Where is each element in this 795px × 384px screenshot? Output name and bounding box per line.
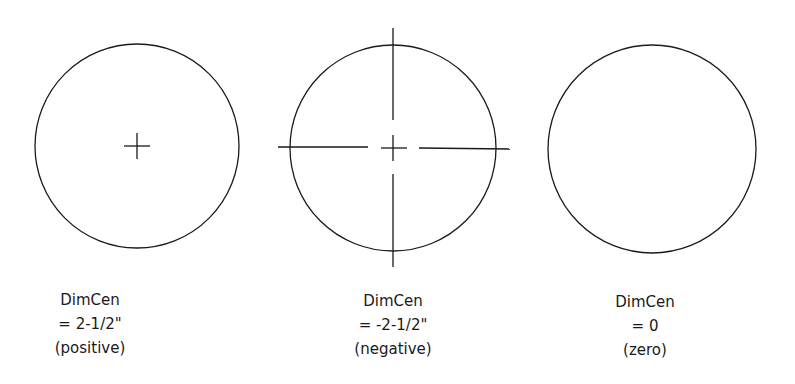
label-value: = 0 <box>555 314 735 338</box>
circle-zero <box>548 45 756 253</box>
label-positive: DimCen = 2-1/2" (positive) <box>0 288 180 360</box>
label-kind: (positive) <box>0 336 180 360</box>
center-mark-icon <box>124 133 150 159</box>
label-value: = -2-1/2" <box>303 313 483 337</box>
label-title: DimCen <box>303 289 483 313</box>
label-zero: DimCen = 0 (zero) <box>555 290 735 362</box>
label-title: DimCen <box>0 288 180 312</box>
label-title: DimCen <box>555 290 735 314</box>
label-kind: (negative) <box>303 337 483 361</box>
label-negative: DimCen = -2-1/2" (negative) <box>303 289 483 361</box>
label-kind: (zero) <box>555 338 735 362</box>
center-lines-icon <box>278 28 510 267</box>
label-value: = 2-1/2" <box>0 312 180 336</box>
